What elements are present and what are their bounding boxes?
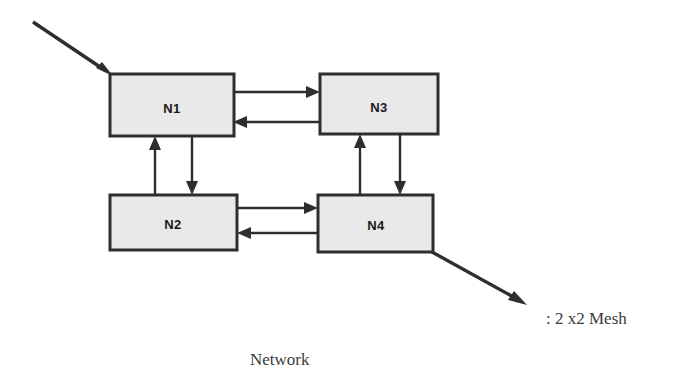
- node-n2[interactable]: N2: [110, 195, 237, 250]
- link-n4-to-n2: [237, 227, 318, 239]
- node-n1[interactable]: N1: [110, 74, 234, 136]
- link-n2-to-n1: [149, 136, 161, 195]
- network-topology-diagram: N1 N3 N2 N4 : 2 x2 Mesh Network: [0, 0, 680, 384]
- node-n3-label: N3: [370, 100, 388, 115]
- link-n3-to-n4: [394, 134, 406, 195]
- link-n4-to-n3-arrowhead: [354, 134, 366, 148]
- link-n1-to-n2-arrowhead: [186, 181, 198, 195]
- link-n1-to-n2: [186, 136, 198, 195]
- link-n1-to-n3: [234, 86, 320, 98]
- link-n2-to-n4: [237, 202, 318, 214]
- network-input-arrow: [33, 22, 113, 76]
- link-n1-to-n3-arrowhead: [306, 86, 320, 98]
- node-n4-label: N4: [367, 218, 385, 233]
- node-n4[interactable]: N4: [318, 195, 433, 252]
- node-n3[interactable]: N3: [320, 74, 438, 134]
- network-caption: Network: [250, 350, 310, 369]
- link-n3-to-n4-arrowhead: [394, 181, 406, 195]
- network-output-arrow: [432, 252, 527, 305]
- network-output-arrowhead: [508, 291, 527, 305]
- link-n2-to-n4-arrowhead: [304, 202, 318, 214]
- node-n1-label: N1: [163, 101, 181, 116]
- link-n2-to-n1-arrowhead: [149, 136, 161, 150]
- link-n4-to-n2-arrowhead: [237, 227, 251, 239]
- link-n4-to-n3: [354, 134, 366, 195]
- link-n3-to-n1: [233, 116, 320, 128]
- mesh-caption: : 2 x2 Mesh: [546, 309, 627, 328]
- node-n2-label: N2: [164, 217, 182, 232]
